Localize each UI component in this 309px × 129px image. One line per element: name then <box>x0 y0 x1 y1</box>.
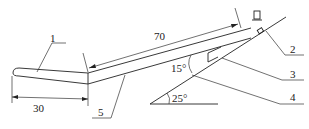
part-2-bolt <box>252 11 264 34</box>
part-1-handle <box>13 68 88 84</box>
angle-25-label: 25° <box>172 92 187 104</box>
angle-15-label: 15° <box>171 62 186 74</box>
part-1-label: 1 <box>50 32 56 44</box>
dimension-70-label: 70 <box>154 30 166 42</box>
part-3-label: 3 <box>290 68 296 80</box>
leader-1 <box>37 43 66 72</box>
angle-25-arc <box>167 93 170 104</box>
part-5-label: 5 <box>98 106 104 118</box>
dimension-30 <box>12 76 88 106</box>
leader-4 <box>192 75 304 104</box>
mechanical-diagram: 30 70 15° 25° 1 5 2 3 4 <box>0 0 309 129</box>
part-4-label: 4 <box>290 91 296 103</box>
part-5-arm <box>88 28 251 84</box>
angle-15-arc <box>189 55 192 73</box>
part-2-label: 2 <box>290 43 296 55</box>
leader-2 <box>266 31 304 55</box>
dimension-30-label: 30 <box>33 102 45 114</box>
